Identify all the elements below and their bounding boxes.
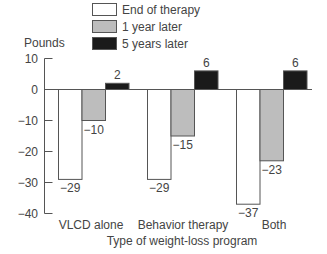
legend-label: 1 year later: [122, 20, 182, 34]
bar-value-label: −10: [84, 123, 105, 137]
y-tick-label: −10: [18, 114, 39, 128]
chart: End of therapy1 year later5 years later …: [0, 0, 327, 254]
y-tick-label: −20: [18, 145, 39, 159]
legend-label: 5 years later: [122, 37, 188, 51]
y-axis-label: Pounds: [24, 36, 65, 50]
legend: End of therapy1 year later5 years later: [93, 3, 201, 51]
y-tick-label: 0: [31, 83, 38, 97]
bar-value-label: −15: [173, 138, 194, 152]
y-axis: 100−10−20−30−40: [18, 52, 53, 221]
bar: [237, 90, 261, 205]
legend-label: End of therapy: [122, 3, 200, 17]
bar: [59, 90, 83, 180]
legend-swatch: [93, 38, 117, 50]
y-tick-label: 10: [25, 52, 39, 66]
legend-swatch: [93, 4, 117, 16]
y-tick-label: −40: [18, 207, 39, 221]
legend-swatch: [93, 21, 117, 33]
x-category-label: Both: [262, 218, 287, 232]
bar: [106, 83, 130, 89]
bar: [260, 90, 284, 161]
bars: −29−102−29−156−37−236: [59, 56, 308, 220]
y-tick-label: −30: [18, 176, 39, 190]
x-category-label: Behavior therapy: [138, 218, 229, 232]
bar-value-label: 2: [114, 68, 121, 82]
bar-value-label: 6: [292, 56, 299, 70]
bar-value-label: 6: [203, 56, 210, 70]
bar: [82, 90, 106, 121]
bar: [284, 71, 308, 90]
x-category-label: VLCD alone: [59, 218, 124, 232]
bar-value-label: −29: [149, 181, 170, 195]
x-axis-label: Type of weight-loss program: [107, 234, 258, 248]
bar-value-label: −29: [60, 181, 81, 195]
bar: [171, 90, 195, 137]
bar: [148, 90, 172, 180]
bar: [195, 71, 219, 90]
bar-value-label: −37: [238, 206, 259, 220]
bar-value-label: −23: [262, 163, 283, 177]
